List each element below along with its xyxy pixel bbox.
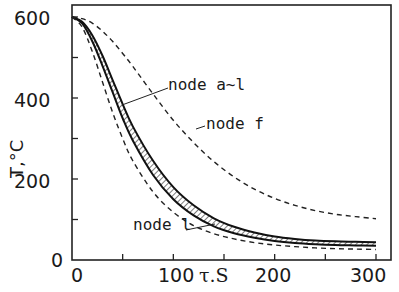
x-tick-200: 200 [255,266,291,285]
annotation-node-a-l: node a~l [168,75,245,94]
leader-node-f [196,126,205,129]
x-tick-0: 0 [71,266,83,285]
y-tick-600: 600 [14,9,50,28]
curve-node-l [72,17,376,249]
x-tick-300: 300 [350,266,386,285]
leader-node-a-l [122,88,168,105]
y-tick-400: 400 [14,91,50,110]
annotation-node-f: node f [206,114,264,133]
x-tick-100: 100 [158,266,194,285]
x-axis-label: τ.S [199,266,229,285]
y-tick-0: 0 [51,251,63,270]
y-axis-label: T,°C [6,140,27,178]
annotation-node-l: node l [133,215,191,234]
